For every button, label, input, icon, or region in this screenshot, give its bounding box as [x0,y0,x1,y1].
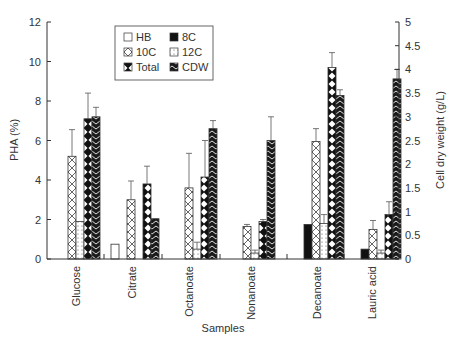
y2-tick-label: 1.5 [405,182,420,194]
bar-10c [312,141,320,259]
bar-group-glucose [68,93,100,259]
bar-10c [243,226,251,259]
legend-swatch-cdw [170,63,178,71]
legend: HB8C10C12CTotalCDW [115,26,213,80]
bar-total [259,221,267,259]
bar-12c [193,249,201,259]
legend-label-hb: HB [136,31,151,43]
bar-total [385,215,393,259]
x-tick-label: Octanoate [183,266,195,317]
y2-tick-label: 2 [405,158,411,170]
bar-hb [111,244,119,259]
bar-cdw [92,117,100,259]
legend-label-12c: 12C [182,46,202,58]
y2-tick-label: 0.5 [405,229,420,241]
y2-tick-label: 2.5 [405,135,420,147]
legend-label-total: Total [136,61,159,73]
bar-cdw [336,95,344,259]
y2-tick-label: 3.5 [405,87,420,99]
bar-group-citrate [111,166,159,259]
bar-group-decanoate [304,53,344,259]
y-tick-label: 2 [35,214,41,226]
x-tick-label: Citrate [126,266,138,298]
legend-swatch-10c [124,48,132,56]
y-tick-label: 0 [35,253,41,265]
y-tick-label: 10 [29,56,41,68]
y-tick-label: 8 [35,95,41,107]
bar-12c [320,223,328,259]
y2-tick-label: 4.5 [405,40,420,52]
legend-swatch-8c [170,33,178,41]
bar-total [143,184,151,259]
x-tick-label: Decanoate [311,266,323,319]
bar-12c [377,253,385,259]
bar-group-octanoate [185,121,217,259]
y2-tick-label: 3 [405,111,411,123]
y-tick-label: 6 [35,135,41,147]
chart: 02468101200.511.522.533.544.55GlucoseCit… [0,0,454,344]
bar-10c [127,200,135,259]
legend-label-10c: 10C [136,46,156,58]
bar-10c [68,156,76,259]
bar-10c [185,188,193,259]
bar-8c [361,249,369,259]
y2-axis-title: Cell dry weight (g/L) [434,91,446,189]
y2-tick-label: 4 [405,63,411,75]
bar-cdw [209,129,217,259]
y2-tick-label: 1 [405,206,411,218]
bar-cdw [151,219,159,259]
legend-label-cdw: CDW [182,61,209,73]
bar-cdw [393,79,401,259]
bar-12c [251,253,259,259]
x-tick-label: Glucose [70,266,82,306]
y2-tick-label: 5 [405,16,411,28]
x-tick-label: Lauric acid [366,266,378,319]
y-tick-label: 4 [35,174,41,186]
legend-swatch-hb [124,33,132,41]
y-tick-label: 12 [29,16,41,28]
x-axis-title: Samples [202,322,245,334]
bar-group-nonanoate [243,117,275,259]
x-tick-label: Nonanoate [245,266,257,320]
legend-label-8c: 8C [182,31,196,43]
y2-tick-label: 0 [405,253,411,265]
y-axis-title: PHA (%) [8,119,20,161]
bar-total [84,119,92,259]
legend-swatch-12c [170,48,178,56]
bar-10c [369,229,377,259]
bar-12c [76,221,84,259]
bar-total [201,177,209,259]
legend-swatch-total [124,63,132,71]
bar-8c [304,224,312,259]
bar-total [328,67,336,259]
bars-layer [68,53,401,259]
bar-cdw [267,141,275,260]
